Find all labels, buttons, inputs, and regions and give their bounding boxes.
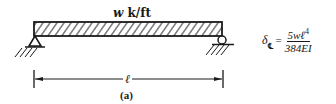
figure-caption: (a): [120, 89, 133, 101]
formula-fraction: 5wℓ4 384EI: [285, 27, 312, 54]
equals-sign: =: [276, 34, 282, 46]
pin-support-icon: [15, 36, 45, 57]
formula-lhs: δ℄: [262, 33, 273, 48]
load-label: w k/ft: [113, 6, 151, 20]
span-label: ℓ: [123, 72, 132, 87]
distributed-load-block: [34, 22, 222, 36]
roller-support-icon: [206, 36, 234, 55]
deflection-formula: δ℄ = 5wℓ4 384EI: [262, 27, 312, 54]
formula-numerator: 5wℓ4: [287, 27, 310, 42]
formula-denominator: 384EI: [285, 42, 312, 54]
